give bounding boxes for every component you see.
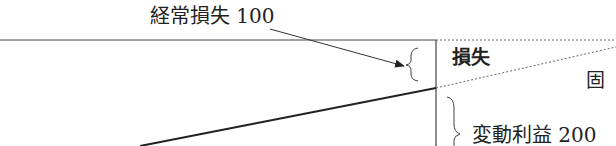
loss-brace <box>406 48 418 81</box>
ordinary-loss-label: 経常損失 100 <box>150 6 275 26</box>
variable-profit-line <box>140 88 436 146</box>
loss-label: 損失 <box>452 48 490 67</box>
ordinary-loss-arrow <box>270 29 404 66</box>
variable-profit-label: 変動利益 200 <box>472 125 597 145</box>
fixed-cost-label: 固 <box>586 71 605 90</box>
variable-profit-brace <box>447 97 460 146</box>
